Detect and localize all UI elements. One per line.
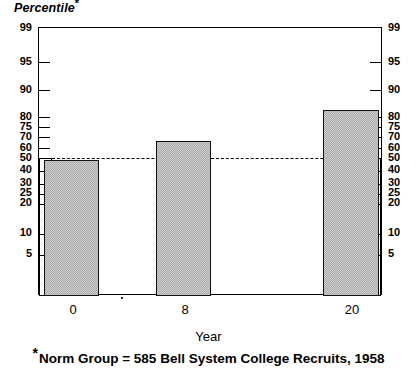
y-label-left-99: 99 — [6, 22, 32, 33]
y-label-left-10: 10 — [6, 227, 32, 238]
y-tick-right-90 — [370, 90, 381, 91]
y-label-left-50: 50 — [6, 152, 32, 163]
y-label-right-5: 5 — [388, 248, 414, 259]
plot-area — [38, 27, 382, 295]
y-label-right-95: 95 — [388, 56, 414, 67]
y-tick-left-90 — [39, 90, 50, 91]
y-tick-left-80 — [39, 117, 50, 118]
y-tick-left-70 — [39, 137, 50, 138]
y-label-left-40: 40 — [6, 164, 32, 175]
percentile-bar-chart: Percentile* — [0, 0, 417, 373]
chart-footnote: *Norm Group = 585 Bell System College Re… — [0, 352, 417, 366]
y-axis-title-text: Percentile — [14, 1, 75, 15]
footnote-text: Norm Group = 585 Bell System College Rec… — [39, 351, 385, 366]
y-axis-title: Percentile* — [14, 1, 79, 15]
x-tick-label-20: 20 — [327, 303, 377, 316]
x-tick-label-0: 0 — [48, 303, 98, 316]
y-tick-right-95 — [370, 62, 381, 63]
bar-year-0 — [44, 160, 99, 296]
x-axis-minor-dot — [121, 297, 123, 299]
y-tick-left-95 — [39, 62, 50, 63]
x-axis-title: Year — [0, 330, 417, 343]
y-label-right-20: 20 — [388, 197, 414, 208]
y-label-right-90: 90 — [388, 84, 414, 95]
footnote-marker: * — [33, 345, 38, 361]
y-tick-left-75 — [39, 127, 50, 128]
y-label-right-40: 40 — [388, 164, 414, 175]
bar-year-8 — [156, 141, 211, 296]
y-label-left-5: 5 — [6, 248, 32, 259]
x-tick-label-8: 8 — [160, 303, 210, 316]
y-label-left-90: 90 — [6, 84, 32, 95]
y-label-left-95: 95 — [6, 56, 32, 67]
y-label-left-20: 20 — [6, 197, 32, 208]
y-label-right-10: 10 — [388, 227, 414, 238]
y-tick-left-60 — [39, 148, 50, 149]
y-label-right-50: 50 — [388, 152, 414, 163]
y-axis-footnote-marker: * — [75, 0, 79, 9]
bar-year-20 — [323, 110, 379, 296]
y-label-right-99: 99 — [388, 22, 414, 33]
